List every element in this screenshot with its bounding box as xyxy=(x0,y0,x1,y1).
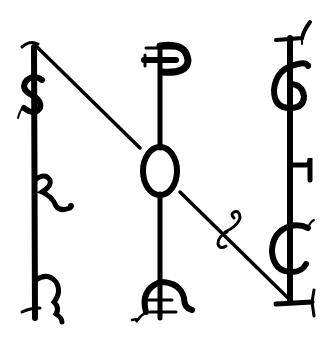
middle-staff xyxy=(132,45,192,322)
glyph-r xyxy=(35,176,74,210)
right-staff xyxy=(272,22,314,316)
sigil-figure: S R h P O A G F C L xyxy=(0,0,336,342)
diagonal-line xyxy=(36,46,140,148)
left-staff xyxy=(18,43,74,322)
glyph-s xyxy=(18,77,42,118)
glyph-h xyxy=(36,276,62,322)
label-h: h xyxy=(46,295,47,296)
left-staff-line xyxy=(34,47,35,318)
label-a: A xyxy=(161,298,163,299)
label-f: F xyxy=(298,170,299,171)
label-o: O xyxy=(160,171,161,173)
glyph-p xyxy=(144,45,188,72)
